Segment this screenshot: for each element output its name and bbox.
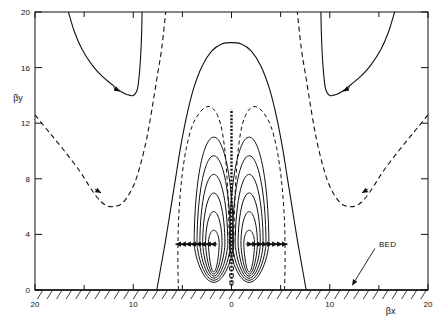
y-tick-label: 12	[21, 119, 30, 128]
y-tick-label: 4	[26, 230, 31, 239]
x-tick-label: 0	[229, 300, 234, 309]
x-axis-title: βx	[386, 306, 396, 316]
y-tick-label: 16	[21, 64, 30, 73]
figure-background	[0, 0, 446, 317]
x-tick-label: 10	[325, 300, 334, 309]
y-tick-label: 8	[26, 175, 31, 184]
x-tick-label: 10	[129, 300, 138, 309]
x-tick-label: 20	[31, 300, 40, 309]
x-tick-label: 20	[424, 300, 433, 309]
y-axis-title: βy	[13, 93, 23, 103]
bed-label: BED	[379, 240, 396, 249]
y-tick-label: 20	[21, 8, 30, 17]
figure-container: 201001020 048121620 βy βx BED	[0, 0, 446, 317]
streamline-contour-plot: 201001020 048121620 βy βx BED	[0, 0, 446, 317]
y-tick-label: 0	[26, 286, 31, 295]
